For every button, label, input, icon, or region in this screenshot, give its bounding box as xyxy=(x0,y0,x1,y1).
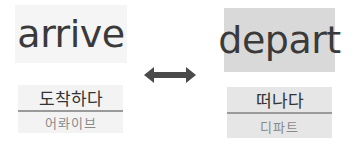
word-card-arrive: arrive xyxy=(15,5,127,63)
korean-meaning: 도착하다 xyxy=(18,85,123,110)
english-word: depart xyxy=(218,18,340,62)
translation-card-depart: 떠나다 디파트 xyxy=(227,87,332,138)
korean-pronunciation: 어롸이브 xyxy=(18,112,123,133)
word-card-depart: depart xyxy=(224,8,335,72)
korean-meaning: 떠나다 xyxy=(227,87,332,112)
korean-pronunciation: 디파트 xyxy=(227,114,332,138)
translation-card-arrive: 도착하다 어롸이브 xyxy=(18,85,123,133)
double-arrow-icon xyxy=(144,66,196,84)
english-word: arrive xyxy=(17,12,124,56)
